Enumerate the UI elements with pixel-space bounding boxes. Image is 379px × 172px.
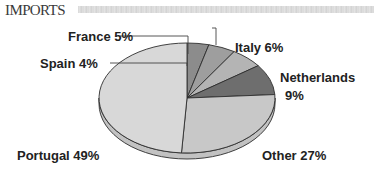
pie-chart <box>0 0 379 172</box>
label-france: France 5% <box>68 29 133 44</box>
label-netherlands: Netherlands <box>280 70 355 85</box>
label-netherlands-pct: 9% <box>285 88 304 103</box>
label-portugal: Portugal 49% <box>17 148 99 163</box>
label-spain: Spain 4% <box>40 56 98 71</box>
label-other: Other 27% <box>262 148 326 163</box>
label-italy: Italy 6% <box>235 40 283 55</box>
leader-italy <box>212 28 216 45</box>
pie-slice-other <box>181 95 275 153</box>
pie-slices <box>99 43 275 153</box>
pie-slice-portugal <box>99 43 187 153</box>
